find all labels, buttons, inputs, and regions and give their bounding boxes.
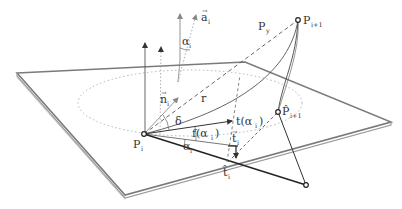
point-P-hat-i-plus-1 [276, 110, 281, 115]
svg-text:i: i [228, 173, 230, 181]
point-P-i [142, 132, 147, 137]
svg-text:δ: δ [175, 115, 182, 128]
svg-text:i: i [237, 139, 239, 147]
label-t-alpha-i: t(α i ) [236, 115, 263, 130]
point-P-i-plus-1 [296, 18, 301, 23]
svg-text:i: i [167, 100, 169, 108]
svg-text:i+1: i+1 [311, 21, 323, 29]
svg-text:→: → [161, 89, 167, 97]
svg-text:t(α: t(α [236, 115, 253, 128]
svg-text:i: i [255, 122, 257, 130]
diagram-canvas: a i → α i P y P i+1 n i → r δ t(α i ) f(… [0, 0, 402, 209]
svg-text:i: i [190, 147, 192, 155]
svg-text:i: i [208, 18, 210, 26]
svg-text:y: y [265, 27, 270, 35]
svg-text:P̂: P̂ [282, 105, 290, 118]
svg-text:→: → [202, 7, 208, 15]
label-f-alpha-i: f(α i ) [192, 127, 219, 142]
svg-text:P: P [258, 20, 266, 33]
svg-text:P: P [303, 14, 311, 27]
svg-text:i: i [189, 42, 191, 50]
svg-text:): ) [215, 127, 219, 140]
svg-text:r: r [201, 92, 207, 105]
svg-text:f(α: f(α [192, 127, 208, 140]
svg-text:i: i [141, 145, 143, 153]
svg-text:i: i [211, 134, 213, 142]
label-P-y: P y [258, 20, 270, 35]
point-corner [304, 183, 309, 188]
label-a-i: a i → [201, 7, 210, 26]
svg-text:): ) [259, 115, 263, 128]
svg-text:i+1: i+1 [290, 112, 302, 120]
svg-text:→: → [232, 128, 238, 136]
label-r: r [201, 92, 207, 105]
label-delta: δ [175, 115, 182, 128]
svg-text:P: P [133, 138, 141, 151]
label-P-i-plus-1: P i+1 [303, 14, 323, 29]
